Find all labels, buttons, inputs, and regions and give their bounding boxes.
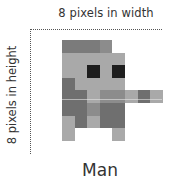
pixel-cell xyxy=(150,128,163,141)
width-label: 8 pixels in width xyxy=(50,6,162,20)
pixel-cell xyxy=(112,116,125,129)
pixel-cell xyxy=(75,78,88,91)
pixel-cell xyxy=(75,65,88,78)
pixel-cell xyxy=(138,78,151,91)
pixel-cell xyxy=(138,53,151,66)
pixel-cell xyxy=(62,53,75,66)
grid-seam-line xyxy=(62,99,162,100)
pixel-cell xyxy=(62,103,75,116)
pixel-cell xyxy=(112,78,125,91)
pixel-cell xyxy=(112,90,125,103)
pixel-cell xyxy=(87,128,100,141)
pixel-cell xyxy=(62,78,75,91)
caption: Man xyxy=(60,160,140,180)
pixel-cell xyxy=(100,116,113,129)
pixel-cell xyxy=(125,78,138,91)
pixel-cell xyxy=(87,78,100,91)
pixel-cell xyxy=(125,90,138,103)
pixel-cell xyxy=(75,90,88,103)
pixel-cell xyxy=(62,65,75,78)
pixel-cell xyxy=(150,90,163,103)
pixel-cell xyxy=(150,116,163,129)
pixel-cell xyxy=(112,65,125,78)
pixel-cell xyxy=(150,103,163,116)
pixel-art-grid xyxy=(62,40,163,141)
pixel-cell xyxy=(75,40,88,53)
pixel-cell xyxy=(125,40,138,53)
pixel-cell xyxy=(100,90,113,103)
pixel-cell xyxy=(100,65,113,78)
pixel-cell xyxy=(138,116,151,129)
pixel-cell xyxy=(150,65,163,78)
pixel-cell xyxy=(150,53,163,66)
pixel-cell xyxy=(125,128,138,141)
pixel-cell xyxy=(87,65,100,78)
pixel-cell xyxy=(125,103,138,116)
pixel-cell xyxy=(100,128,113,141)
pixel-cell xyxy=(112,53,125,66)
pixel-cell xyxy=(75,53,88,66)
pixel-cell xyxy=(87,116,100,129)
pixel-cell xyxy=(138,90,151,103)
pixel-cell xyxy=(87,90,100,103)
pixel-cell xyxy=(75,103,88,116)
pixel-cell xyxy=(138,103,151,116)
pixel-cell xyxy=(112,128,125,141)
pixel-cell xyxy=(62,128,75,141)
pixel-cell xyxy=(138,65,151,78)
pixel-cell xyxy=(112,40,125,53)
pixel-cell xyxy=(125,53,138,66)
pixel-cell xyxy=(150,78,163,91)
pixel-cell xyxy=(87,53,100,66)
width-dimension-line xyxy=(30,29,162,30)
pixel-cell xyxy=(62,90,75,103)
height-label-container: 8 pixels in height xyxy=(2,40,22,150)
pixel-cell xyxy=(75,116,88,129)
pixel-cell xyxy=(100,103,113,116)
pixel-cell xyxy=(87,40,100,53)
height-label: 8 pixels in height xyxy=(5,46,19,145)
pixel-cell xyxy=(112,103,125,116)
pixel-cell xyxy=(100,78,113,91)
pixel-cell xyxy=(138,128,151,141)
pixel-cell xyxy=(75,128,88,141)
height-dimension-line xyxy=(30,29,31,154)
pixel-cell xyxy=(100,53,113,66)
pixel-cell xyxy=(125,65,138,78)
pixel-cell xyxy=(150,40,163,53)
pixel-cell xyxy=(138,40,151,53)
pixel-cell xyxy=(62,116,75,129)
pixel-cell xyxy=(62,40,75,53)
pixel-cell xyxy=(125,116,138,129)
pixel-cell xyxy=(87,103,100,116)
pixel-cell xyxy=(100,40,113,53)
